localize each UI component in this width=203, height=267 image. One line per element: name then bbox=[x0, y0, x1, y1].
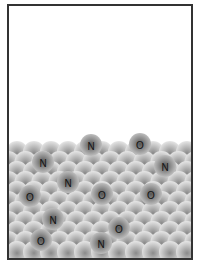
atom-label: N bbox=[39, 158, 46, 169]
oxygen-atom: O bbox=[140, 183, 162, 205]
nitrogen-atom: N bbox=[90, 232, 112, 254]
atom-label: N bbox=[64, 178, 71, 189]
atom-label: O bbox=[37, 236, 45, 247]
nitrogen-atom: N bbox=[42, 208, 64, 230]
oxygen-atom: O bbox=[19, 185, 41, 207]
atom-label: N bbox=[87, 141, 94, 152]
surface-lattice: NONNNOOONOON bbox=[9, 6, 193, 260]
atom-label: N bbox=[49, 215, 56, 226]
atom-label: O bbox=[136, 140, 144, 151]
atom-label: O bbox=[147, 190, 155, 201]
atom-label: O bbox=[26, 192, 34, 203]
nitrogen-atom: N bbox=[80, 134, 102, 156]
atom-label: N bbox=[97, 239, 104, 250]
diagram-canvas: NONNNOOONOON bbox=[0, 0, 203, 267]
atom-label: N bbox=[161, 162, 168, 173]
atom-label: O bbox=[115, 224, 123, 235]
atom-label: O bbox=[98, 190, 106, 201]
oxygen-atom: O bbox=[108, 217, 130, 239]
nitrogen-atom: N bbox=[57, 171, 79, 193]
oxygen-atom: O bbox=[129, 133, 151, 155]
diagram-frame: NONNNOOONOON bbox=[7, 4, 193, 260]
nitrogen-atom: N bbox=[154, 155, 176, 177]
oxygen-atom: O bbox=[91, 183, 113, 205]
oxygen-atom: O bbox=[30, 229, 52, 251]
nitrogen-atom: N bbox=[32, 151, 54, 173]
